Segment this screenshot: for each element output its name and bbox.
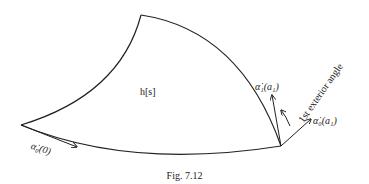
alpha1-a1-label: α̇₁(a₁) <box>255 81 279 92</box>
left-edge-curve <box>21 15 141 125</box>
alpha0-a1-arrow <box>281 119 311 146</box>
region-label: h[s] <box>140 86 156 97</box>
exterior-angle-arc <box>281 110 290 126</box>
figure-caption: Fig. 7.12 <box>0 170 369 181</box>
alpha1-a1-arrow <box>272 95 281 146</box>
alpha0-0-arrow <box>21 125 77 147</box>
bottom-edge-curve <box>21 125 281 154</box>
alpha0-a1-label: α̇₀(a₁) <box>313 115 337 126</box>
